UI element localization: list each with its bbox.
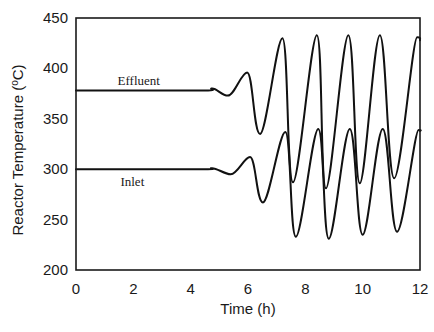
x-tick-labels: 024681012: [72, 280, 429, 297]
y-axis-title-main: Reactor Temperature (: [9, 86, 26, 236]
x-tick-label: 12: [412, 280, 429, 297]
y-tick-labels: 200250300350400450: [43, 9, 68, 278]
x-tick-label: 6: [244, 280, 252, 297]
plot-frame: [76, 18, 420, 270]
y-tick-label: 250: [43, 211, 68, 228]
effluent-label: Effluent: [118, 73, 161, 88]
x-tick-label: 10: [354, 280, 371, 297]
x-tick-label: 0: [72, 280, 80, 297]
inlet-label: Inlet: [120, 174, 144, 189]
y-tick-label: 300: [43, 160, 68, 177]
plot-area: [76, 18, 421, 270]
x-tick-label: 4: [186, 280, 194, 297]
y-axis-title: Reactor Temperature (oC): [9, 64, 26, 235]
chart: 200250300350400450 024681012 Effluent In…: [0, 0, 434, 332]
y-tick-label: 450: [43, 9, 68, 26]
x-tick-label: 2: [129, 280, 137, 297]
x-tick-label: 8: [301, 280, 309, 297]
y-axis-title-unit: C): [9, 64, 26, 80]
y-tick-label: 200: [43, 261, 68, 278]
x-axis-title: Time (h): [220, 300, 275, 317]
y-tick-label: 350: [43, 110, 68, 127]
y-tick-label: 400: [43, 59, 68, 76]
effluent-curve: [76, 35, 420, 188]
